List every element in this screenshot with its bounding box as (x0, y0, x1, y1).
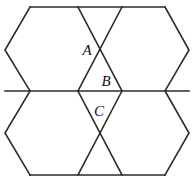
hexagon-tiling-figure: A B C (0, 0, 194, 182)
point-label-b: B (101, 73, 110, 89)
point-label-a: A (81, 42, 92, 58)
figure-canvas: A B C (0, 0, 194, 182)
point-label-c: C (94, 103, 105, 119)
